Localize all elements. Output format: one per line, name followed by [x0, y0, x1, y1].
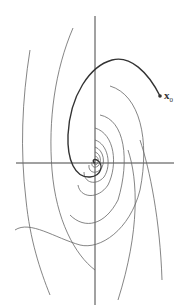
initial-point-label: x0 — [164, 89, 173, 104]
phase-portrait — [0, 0, 185, 306]
axes — [16, 16, 174, 305]
initial-point-dot — [158, 94, 162, 98]
